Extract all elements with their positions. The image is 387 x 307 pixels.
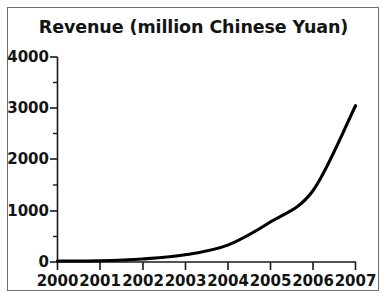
x-tick-label-2005: 2005 [250,272,292,290]
y-tick-label-0: 0 [39,253,49,271]
y-tick-label-1000: 1000 [7,202,49,220]
x-tick-label-2006: 2006 [292,272,334,290]
y-axis-tick-labels: 4000 3000 2000 1000 0 [7,48,49,271]
y-tick-label-3000: 3000 [7,99,49,117]
x-axis-ticks [58,262,356,270]
x-tick-label-2000: 2000 [37,272,79,290]
x-tick-label-2007: 2007 [335,272,377,290]
y-tick-label-4000: 4000 [7,48,49,66]
x-tick-label-2004: 2004 [207,272,249,290]
revenue-line-series [58,106,356,261]
x-tick-label-2003: 2003 [165,272,207,290]
chart-figure: Revenue (million Chinese Yuan) 4000 3000… [0,0,387,307]
x-tick-label-2002: 2002 [122,272,164,290]
x-tick-label-2001: 2001 [79,272,121,290]
y-axis-major-ticks [50,57,58,262]
x-axis-tick-labels: 2000 2001 2002 2003 2004 2005 2006 2007 [37,272,377,290]
y-tick-label-2000: 2000 [7,150,49,168]
plot-area: 4000 3000 2000 1000 0 [0,0,387,307]
